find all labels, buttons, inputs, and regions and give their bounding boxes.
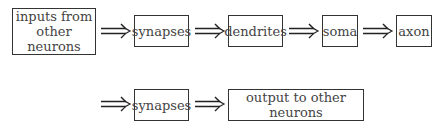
double-arrow-icon (289, 23, 319, 39)
node-synapses-output: synapses (134, 89, 189, 121)
node-axon: axon (396, 15, 432, 47)
double-arrow-icon (195, 96, 225, 112)
node-dendrites: dendrites (228, 15, 283, 47)
node-output-to-other-neurons: output to other neurons (228, 89, 364, 121)
node-label-line2: other neurons (13, 24, 95, 54)
double-arrow-icon (101, 96, 131, 112)
node-soma: soma (322, 15, 358, 47)
node-label: dendrites (224, 24, 287, 39)
node-label: synapses (132, 98, 192, 113)
double-arrow-icon (195, 23, 225, 39)
node-label: soma (323, 24, 358, 39)
node-label-line1: inputs from (16, 9, 92, 24)
double-arrow-icon (101, 23, 131, 39)
node-label: axon (398, 24, 429, 39)
node-inputs-from-other-neurons: inputs from other neurons (12, 8, 96, 55)
node-synapses: synapses (134, 15, 189, 47)
double-arrow-icon (363, 23, 393, 39)
node-label: output to other neurons (229, 90, 363, 120)
node-label: synapses (132, 24, 192, 39)
